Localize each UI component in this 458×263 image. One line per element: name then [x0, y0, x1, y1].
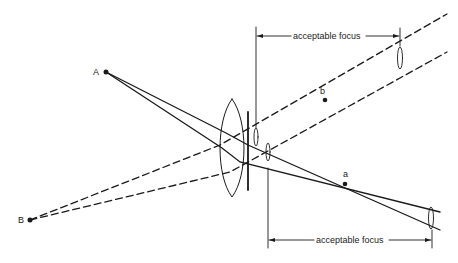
point-B-label: B: [18, 215, 24, 225]
ray-A-upper: [106, 72, 440, 230]
image-b-label: b: [320, 86, 325, 96]
image-a-dot: [343, 182, 348, 187]
image-b-dot: [323, 98, 328, 103]
ray-A-lower: [106, 72, 440, 212]
point-A-label: A: [93, 67, 99, 77]
blur-circle-b-near: [254, 128, 258, 146]
lens: [220, 99, 244, 197]
depth-of-focus-diagram: A B a b acceptable focus acceptable focu…: [0, 0, 458, 263]
ray-B-upper: [30, 14, 447, 220]
top-arrowhead-right: [393, 34, 399, 38]
bottom-dimension-label: acceptable focus: [316, 235, 384, 245]
point-A-dot: [104, 70, 109, 75]
top-arrowhead-left: [257, 34, 263, 38]
image-a-label: a: [343, 169, 348, 179]
bottom-arrowhead-left: [269, 238, 275, 242]
point-B-dot: [28, 218, 33, 223]
blur-circle-b-far: [398, 47, 403, 69]
top-dimension-label: acceptable focus: [293, 31, 361, 41]
bottom-arrowhead-right: [425, 238, 431, 242]
